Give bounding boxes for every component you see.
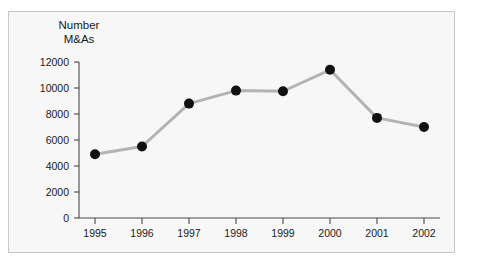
data-point-markers — [90, 65, 429, 160]
y-tick-label: 4000 — [46, 160, 70, 172]
x-tick-label: 2000 — [318, 227, 342, 239]
data-series-line — [95, 70, 424, 155]
chart-screenshot: Number M&As 020004000600080001000012000 … — [0, 0, 480, 266]
data-point — [278, 86, 288, 96]
x-tick-label: 1997 — [177, 227, 201, 239]
y-tick-label: 12000 — [40, 56, 69, 68]
y-axis-ticks — [74, 62, 79, 218]
data-point — [184, 99, 194, 109]
y-tick-label: 0 — [63, 212, 69, 224]
y-axis-title-line1: Number — [59, 19, 100, 31]
line-chart: Number M&As 020004000600080001000012000 … — [0, 0, 480, 266]
y-axis-title-line2: M&As — [64, 33, 95, 45]
data-point — [90, 149, 100, 159]
data-point — [231, 86, 241, 96]
data-point — [137, 142, 147, 152]
x-tick-label: 1996 — [130, 227, 154, 239]
y-axis-labels: 020004000600080001000012000 — [40, 56, 69, 224]
y-tick-label: 10000 — [40, 82, 69, 94]
x-tick-label: 2002 — [412, 227, 436, 239]
x-tick-label: 1995 — [83, 227, 107, 239]
data-point — [419, 122, 429, 132]
data-point — [325, 65, 335, 75]
x-axis-ticks — [95, 218, 424, 224]
y-tick-label: 2000 — [46, 186, 70, 198]
x-tick-label: 1998 — [224, 227, 248, 239]
y-tick-label: 6000 — [46, 134, 70, 146]
y-tick-label: 8000 — [46, 108, 70, 120]
data-point — [372, 113, 382, 123]
x-axis-labels: 19951996199719981999200020012002 — [83, 227, 436, 239]
x-tick-label: 1999 — [271, 227, 295, 239]
x-tick-label: 2001 — [365, 227, 389, 239]
